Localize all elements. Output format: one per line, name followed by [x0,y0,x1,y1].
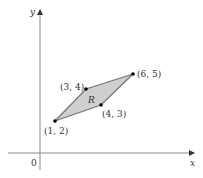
diagram-canvas: (1, 2) (4, 3) (6, 5) (3, 4) R y x 0 [0,0,203,178]
origin-label: 0 [31,158,37,168]
vertex-4-3 [99,103,103,107]
vertex-1-2 [53,119,57,123]
vertex-label-1-2: (1, 2) [44,126,68,136]
vertex-label-3-4: (3, 4) [60,82,84,92]
y-axis-label: y [29,7,36,17]
vertex-label-6-5: (6, 5) [137,69,161,79]
vertex-label-4-3: (4, 3) [102,109,126,119]
x-axis-label: x [190,158,195,168]
region-label: R [87,95,95,105]
vertex-3-4 [84,87,88,91]
vertex-6-5 [131,72,135,76]
